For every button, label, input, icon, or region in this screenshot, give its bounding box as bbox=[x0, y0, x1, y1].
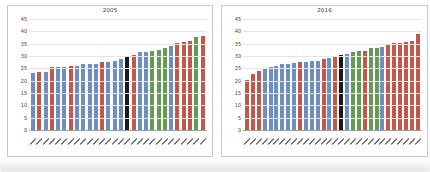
x-axis-tick-label bbox=[188, 134, 192, 148]
x-axis-tick-label bbox=[263, 134, 267, 148]
x-axis-baseline bbox=[29, 130, 207, 131]
x-axis-tick-label bbox=[280, 134, 284, 148]
bar bbox=[31, 73, 35, 131]
y-axis-tick-label: 20 bbox=[235, 79, 241, 84]
gridline bbox=[243, 56, 422, 57]
x-axis-tick-label bbox=[125, 134, 129, 148]
bar bbox=[150, 51, 154, 131]
x-axis-tick-label bbox=[31, 134, 35, 148]
x-axis-tick-label bbox=[316, 134, 320, 148]
bar bbox=[269, 67, 273, 131]
gridline bbox=[243, 31, 422, 32]
x-axis-tick-label bbox=[88, 134, 92, 148]
y-axis-tick-label: 30 bbox=[235, 55, 241, 60]
y-axis-tick-label: 25 bbox=[235, 67, 241, 72]
bar bbox=[257, 71, 261, 131]
x-axis-tick-label bbox=[333, 134, 337, 148]
x-axis-tick-label bbox=[363, 134, 367, 148]
x-axis-tick-label bbox=[163, 134, 167, 148]
bar bbox=[144, 52, 148, 131]
gridline bbox=[243, 44, 422, 45]
bar bbox=[62, 67, 66, 131]
x-axis-tick-label bbox=[286, 134, 290, 148]
x-axis-tick-label bbox=[150, 134, 154, 148]
gridline bbox=[29, 105, 207, 106]
x-axis-tick-label bbox=[144, 134, 148, 148]
chart-panel-2016: 2016 051015202530354045 bbox=[221, 5, 428, 157]
x-axis-tick-label bbox=[304, 134, 308, 148]
x-axis-tick-label bbox=[194, 134, 198, 148]
y-axis-tick-label: 10 bbox=[235, 104, 241, 109]
bar bbox=[113, 61, 117, 131]
y-axis-tick-label: 35 bbox=[235, 42, 241, 47]
x-axis-tick-label bbox=[44, 134, 48, 148]
x-axis-labels bbox=[29, 134, 207, 148]
x-axis-tick-label bbox=[269, 134, 273, 148]
x-axis-tick-label bbox=[339, 134, 343, 148]
gridline bbox=[29, 31, 207, 32]
x-axis-tick-label bbox=[404, 134, 408, 148]
x-axis-tick-label bbox=[386, 134, 390, 148]
x-axis-labels bbox=[243, 134, 422, 148]
bar bbox=[322, 59, 326, 131]
bar bbox=[416, 34, 420, 131]
bar bbox=[316, 61, 320, 131]
y-axis-tick-label: 40 bbox=[235, 30, 241, 35]
rotated-label-stroke bbox=[124, 138, 130, 144]
gridline bbox=[29, 19, 207, 20]
gridline bbox=[29, 118, 207, 119]
x-axis-tick-label bbox=[310, 134, 314, 148]
x-axis-tick-label bbox=[132, 134, 136, 148]
bar-series bbox=[243, 20, 422, 131]
x-axis-tick-label bbox=[351, 134, 355, 148]
x-axis-tick-label bbox=[182, 134, 186, 148]
bar bbox=[286, 64, 290, 131]
y-axis-tick-label: 45 bbox=[21, 18, 27, 23]
bar bbox=[50, 67, 54, 131]
plot-area: 051015202530354045 bbox=[29, 20, 207, 131]
bar bbox=[304, 62, 308, 131]
bar-series bbox=[29, 20, 207, 131]
bar bbox=[357, 51, 361, 131]
bar bbox=[280, 64, 284, 131]
x-axis-tick-label bbox=[357, 134, 361, 148]
x-axis-tick-label bbox=[410, 134, 414, 148]
x-axis-tick-label bbox=[392, 134, 396, 148]
x-axis-tick-label bbox=[62, 134, 66, 148]
bar bbox=[363, 51, 367, 131]
bar bbox=[138, 52, 142, 131]
gridline bbox=[29, 93, 207, 94]
y-axis-tick-label: 20 bbox=[21, 79, 27, 84]
bar bbox=[88, 64, 92, 131]
x-axis-tick-label bbox=[327, 134, 331, 148]
rotated-label-stroke bbox=[36, 138, 42, 144]
gridline bbox=[243, 19, 422, 20]
x-axis-tick-label bbox=[175, 134, 179, 148]
y-axis-tick-label: 0 bbox=[238, 129, 241, 134]
gridline bbox=[243, 118, 422, 119]
y-axis-tick-label: 0 bbox=[24, 129, 27, 134]
y-axis-tick-label: 10 bbox=[21, 104, 27, 109]
x-axis-tick-label bbox=[274, 134, 278, 148]
bar bbox=[94, 64, 98, 131]
y-axis-tick-label: 35 bbox=[21, 42, 27, 47]
rotated-label-stroke bbox=[80, 138, 86, 144]
x-axis-tick-label bbox=[298, 134, 302, 148]
gridline bbox=[29, 44, 207, 45]
y-axis-tick-label: 5 bbox=[238, 116, 241, 121]
x-axis-tick-label bbox=[257, 134, 261, 148]
x-axis-tick-label bbox=[322, 134, 326, 148]
x-axis-tick-label bbox=[56, 134, 60, 148]
x-axis-tick-label bbox=[201, 134, 205, 148]
bar bbox=[56, 67, 60, 131]
x-axis-tick-label bbox=[119, 134, 123, 148]
bar bbox=[119, 59, 123, 131]
rotated-label-stroke bbox=[193, 138, 199, 144]
gridline bbox=[29, 56, 207, 57]
bar bbox=[274, 66, 278, 131]
bar bbox=[263, 68, 267, 131]
y-axis-tick-label: 15 bbox=[21, 92, 27, 97]
x-axis-tick-label bbox=[69, 134, 73, 148]
x-axis-tick-label bbox=[292, 134, 296, 148]
bar bbox=[298, 62, 302, 131]
